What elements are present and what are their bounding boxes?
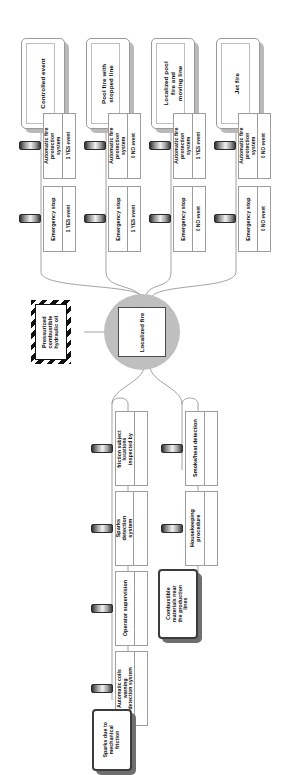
consequence-label: Jet fire <box>235 73 242 94</box>
barrier-label: Emergency stop <box>245 197 251 240</box>
barrier-operator-supervision[interactable]: Operator supervision <box>115 571 148 646</box>
barrier-valve-icon[interactable] <box>149 141 171 150</box>
barrier-outcome: 1 YES event <box>131 205 136 232</box>
consequence-label: Localized pool fire and moving line <box>163 61 184 105</box>
barrier-outcome: 0 NO event <box>261 206 266 231</box>
threat-label: Combustible materials near the productio… <box>166 585 189 623</box>
threat-sparks-due-to-mechanical-friction[interactable]: Sparks due to mechanical friction <box>92 709 132 771</box>
barrier-smoke-heat-detection[interactable]: Smoke/heat detection <box>185 411 218 486</box>
barrier-valve-icon[interactable] <box>84 214 106 223</box>
barrier-valve-icon[interactable] <box>91 604 113 613</box>
consequence-label: Controlled event <box>40 58 47 108</box>
barrier-emergency-stop[interactable]: Emergency stop 0 NO event <box>238 186 271 252</box>
barrier-label: Emergency stop <box>50 197 56 240</box>
barrier-outcome: 1 YES event <box>196 132 201 159</box>
barrier-housekeeping-procedure[interactable]: Housekeeping procedure <box>185 491 218 566</box>
barrier-label: Automatic fire protection system <box>174 128 191 164</box>
barrier-label: Automatic fire protection system <box>239 128 256 164</box>
barrier-valve-icon[interactable] <box>161 524 183 533</box>
barrier-automatic-fire-protection-system[interactable]: Automatic fire protection system 0 NO ev… <box>238 113 271 179</box>
barrier-emergency-stop[interactable]: Emergency stop 0 NO event <box>173 186 206 252</box>
barrier-label: Operator supervision <box>122 580 128 637</box>
barrier-label: Emergency stop <box>180 197 186 240</box>
top-event-localized-fire[interactable]: Localized fire <box>118 307 166 357</box>
barrier-valve-icon[interactable] <box>91 684 113 693</box>
threat-label: Sparks due to mechanical friction <box>103 722 120 758</box>
barrier-emergency-stop[interactable]: Emergency stop 1 YES event <box>43 186 76 252</box>
barrier-automatic-fire-protection-system[interactable]: Automatic fire protection system 1 YES e… <box>43 113 76 179</box>
barrier-emergency-stop[interactable]: Emergency stop 1 YES event <box>108 186 141 252</box>
barrier-valve-icon[interactable] <box>19 141 41 150</box>
barrier-label: Smoke/heat detection <box>192 420 198 478</box>
hazard-label: Pressurized combustible hydraulic oil <box>42 315 60 348</box>
barrier-label: Emergency stop <box>115 197 121 240</box>
barrier-valve-icon[interactable] <box>214 141 236 150</box>
barrier-outcome: 0 NO event <box>131 133 136 158</box>
barrier-outcome: 1 YES event <box>66 132 71 159</box>
barrier-valve-icon[interactable] <box>161 444 183 453</box>
barrier-valve-icon[interactable] <box>91 524 113 533</box>
hazard-pressurized-combustible-hydraulic-oil[interactable]: Pressurized combustible hydraulic oil <box>31 300 71 364</box>
barrier-outcome: 1 YES event <box>66 205 71 232</box>
barrier-valve-icon[interactable] <box>91 444 113 453</box>
barrier-valve-icon[interactable] <box>149 214 171 223</box>
barrier-mechanical-friction-inspection[interactable]: Mechanical friction subject locations in… <box>115 411 148 486</box>
barrier-automatic-fire-protection-system[interactable]: Automatic fire protection system 0 NO ev… <box>108 113 141 179</box>
barrier-sparks-detection-system[interactable]: Sparks detection system <box>115 491 148 566</box>
threat-combustible-materials-near-production-lines[interactable]: Combustible materials near the productio… <box>158 569 198 639</box>
barrier-label: Automatic fire protection system <box>44 128 61 164</box>
barrier-label: Mechanical friction subject locations in… <box>116 430 134 467</box>
barrier-outcome: 0 NO event <box>196 206 201 231</box>
barrier-valve-icon[interactable] <box>214 214 236 223</box>
barrier-label: Automatic fire protection system <box>109 128 126 164</box>
barrier-label: Housekeeping procedure <box>189 509 201 547</box>
barrier-valve-icon[interactable] <box>19 214 41 223</box>
top-event-label: Localized fire <box>139 312 146 352</box>
barrier-label: Automatic coils warning detection system <box>116 667 133 709</box>
barrier-label: Sparks detection system <box>116 516 133 541</box>
consequence-label: Pool fire with stopped line <box>101 63 115 103</box>
barrier-automatic-fire-protection-system[interactable]: Automatic fire protection system 1 YES e… <box>173 113 206 179</box>
barrier-outcome: 0 NO event <box>261 133 266 158</box>
barrier-valve-icon[interactable] <box>84 141 106 150</box>
